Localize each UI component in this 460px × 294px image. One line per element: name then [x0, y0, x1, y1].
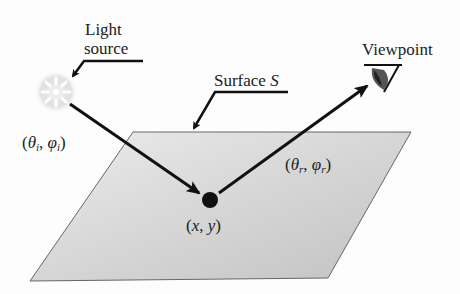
light-source-icon	[34, 70, 78, 114]
viewpoint-label: Viewpoint	[362, 40, 433, 59]
surface-callout	[194, 92, 288, 128]
light-source-callout	[73, 61, 143, 76]
brdf-diagram: Light source Surface S Viewpoint (θi, φi…	[0, 0, 460, 294]
point-label: (x, y)	[186, 216, 221, 235]
surface-plane	[30, 132, 411, 281]
incident-angle-label: (θi, φi)	[22, 133, 66, 153]
light-source-label: Light source	[84, 20, 128, 58]
diagram-canvas: Light source Surface S Viewpoint (θi, φi…	[0, 0, 460, 294]
surface-label: Surface S	[214, 71, 279, 90]
surface-point	[202, 192, 218, 208]
eye-icon	[364, 65, 402, 92]
